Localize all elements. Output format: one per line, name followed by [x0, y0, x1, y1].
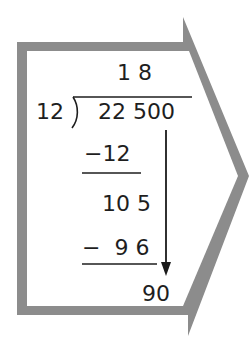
quotient: 1 8: [117, 62, 152, 84]
arrow-frame-outline: [0, 0, 251, 352]
step-remainder-1: 10 5: [102, 193, 151, 215]
step-subtract-1: −12: [84, 143, 130, 165]
divisor: 12: [36, 101, 64, 123]
long-division-diagram: 1 8 12 22 500 −12 10 5 − 9 6 90: [0, 0, 251, 352]
step-remainder-2: 90: [142, 283, 170, 305]
step-subtract-2: − 9 6: [82, 237, 149, 259]
dividend: 22 500: [98, 101, 175, 123]
